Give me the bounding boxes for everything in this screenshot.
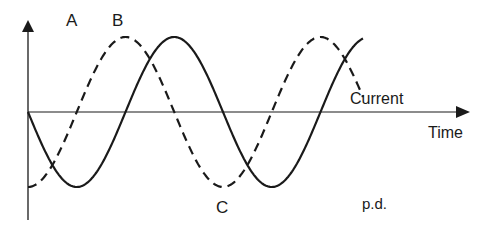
point-label-b: B xyxy=(112,11,123,30)
pd-label: p.d. xyxy=(362,195,387,212)
point-label-c: C xyxy=(216,198,228,217)
y-axis-arrow-icon xyxy=(22,20,34,32)
time-axis-label: Time xyxy=(428,124,463,141)
point-label-a: A xyxy=(66,11,78,30)
current-label: Current xyxy=(350,90,404,107)
x-axis-arrow-icon xyxy=(456,106,470,118)
phase-diagram: A B C Current Time p.d. xyxy=(0,0,485,231)
